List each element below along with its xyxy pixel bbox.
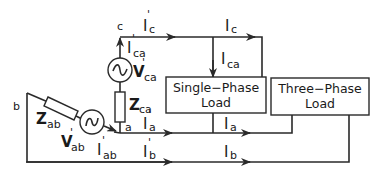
svg-text:Load: Load: [305, 96, 335, 111]
svg-text:b: b: [230, 149, 237, 162]
svg-text:c: c: [149, 23, 155, 36]
label-ib-prime: I ' b: [143, 136, 156, 162]
svg-text:ab: ab: [47, 118, 61, 131]
label-ia: I a: [224, 115, 237, 134]
svg-text:I: I: [97, 141, 101, 159]
svg-text:': ': [148, 136, 151, 149]
svg-text:Z: Z: [36, 110, 47, 128]
label-ic: I c: [225, 17, 237, 36]
label-vab-prime: V ' ab: [61, 126, 85, 154]
three-phase-load: Three−Phase Load: [271, 78, 369, 115]
label-ib: I b: [224, 143, 237, 162]
svg-text:I: I: [224, 143, 228, 161]
label-vca-prime: V ' ca: [133, 56, 157, 84]
svg-text:': ': [132, 32, 135, 45]
label-ica: I ca: [221, 50, 240, 71]
zca-impedance: [115, 92, 125, 122]
svg-text:Single−Phase: Single−Phase: [173, 80, 260, 95]
svg-text:ca: ca: [144, 71, 157, 84]
svg-text:I: I: [143, 115, 147, 133]
svg-text:a: a: [149, 121, 156, 134]
svg-text:I: I: [225, 17, 229, 35]
svg-text:': ': [70, 126, 73, 139]
svg-text:b: b: [149, 149, 156, 162]
label-zab: Z ab: [36, 110, 61, 131]
svg-text:': ': [148, 108, 151, 121]
zab-impedance: [44, 97, 78, 120]
svg-text:I: I: [127, 39, 131, 57]
svg-text:Three−Phase: Three−Phase: [277, 81, 362, 96]
svg-text:I: I: [224, 115, 228, 133]
single-phase-load: Single−Phase Load: [166, 77, 266, 113]
node-b-label: b: [13, 100, 20, 113]
svg-text:ca: ca: [227, 58, 240, 71]
svg-text:I: I: [221, 50, 225, 68]
svg-text:I: I: [143, 143, 147, 161]
ca-branch: [115, 38, 125, 133]
svg-text:ab: ab: [71, 141, 85, 154]
circuit-diagram: Single−Phase Load Three−Phase Load c a b…: [0, 0, 385, 188]
svg-text:c: c: [231, 23, 237, 36]
vca-source-icon: [108, 58, 132, 82]
node-c-label: c: [117, 20, 123, 33]
label-ic-prime: I ' c: [143, 8, 155, 36]
svg-text:Load: Load: [201, 95, 231, 110]
vab-source-icon: [80, 110, 104, 134]
svg-text:ab: ab: [103, 149, 117, 162]
label-iab-prime: I ' ab: [97, 134, 117, 162]
node-a-label: a: [125, 121, 132, 134]
svg-text:a: a: [230, 121, 237, 134]
svg-text:': ': [102, 134, 105, 147]
svg-text:': ': [142, 56, 145, 69]
svg-text:': ': [147, 8, 150, 21]
